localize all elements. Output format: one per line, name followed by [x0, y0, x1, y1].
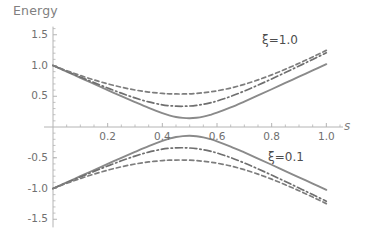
y-tick-label: -1.5 — [14, 212, 48, 224]
y-tick-label: -1.0 — [14, 182, 48, 194]
x-tick-label: 0.6 — [197, 130, 237, 142]
y-tick-label: 0.5 — [14, 89, 48, 101]
y-tick-label: -0.5 — [14, 151, 48, 163]
x-tick-label: 1.0 — [306, 130, 346, 142]
annotation-xi-high: ξ=1.0 — [262, 33, 298, 47]
curve-upper-dotdash — [53, 53, 326, 107]
y-tick-label: 1.0 — [14, 59, 48, 71]
annotation-xi-low: ξ=0.1 — [268, 150, 304, 164]
x-tick-label: 0.4 — [142, 130, 182, 142]
y-tick-label: 1.5 — [14, 28, 48, 40]
axes — [44, 27, 343, 228]
x-tick-label: 0.8 — [252, 130, 292, 142]
energy-spectrum-chart — [0, 0, 367, 232]
x-tick-label: 0.2 — [88, 130, 128, 142]
